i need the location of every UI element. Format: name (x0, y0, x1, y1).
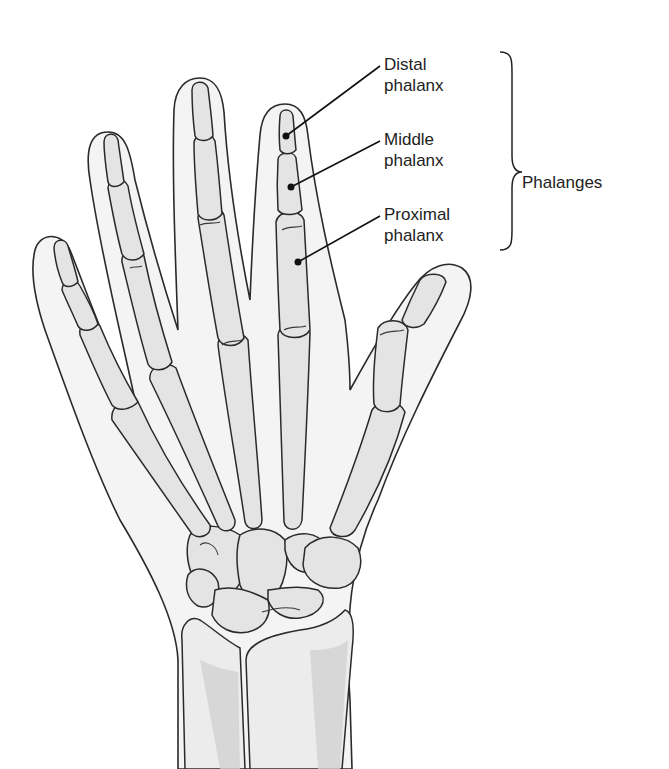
label-distal-phalanx: Distal phalanx (384, 54, 444, 96)
label-distal-line2: phalanx (384, 75, 444, 96)
pointer-dot-proximal (295, 259, 302, 266)
label-middle-line2: phalanx (384, 150, 444, 171)
leader-line-distal (286, 66, 380, 136)
label-middle-line1: Middle (384, 129, 444, 150)
pointer-dot-middle (288, 184, 295, 191)
label-proximal-phalanx: Proximal phalanx (384, 204, 450, 246)
hand-skeleton-diagram (0, 0, 669, 769)
label-distal-line1: Distal (384, 54, 444, 75)
label-middle-phalanx: Middle phalanx (384, 129, 444, 171)
phalanges-brace (500, 52, 522, 250)
label-proximal-line2: phalanx (384, 225, 450, 246)
label-phalanges: Phalanges (522, 173, 602, 193)
pointer-dot-distal (283, 133, 290, 140)
label-proximal-line1: Proximal (384, 204, 450, 225)
